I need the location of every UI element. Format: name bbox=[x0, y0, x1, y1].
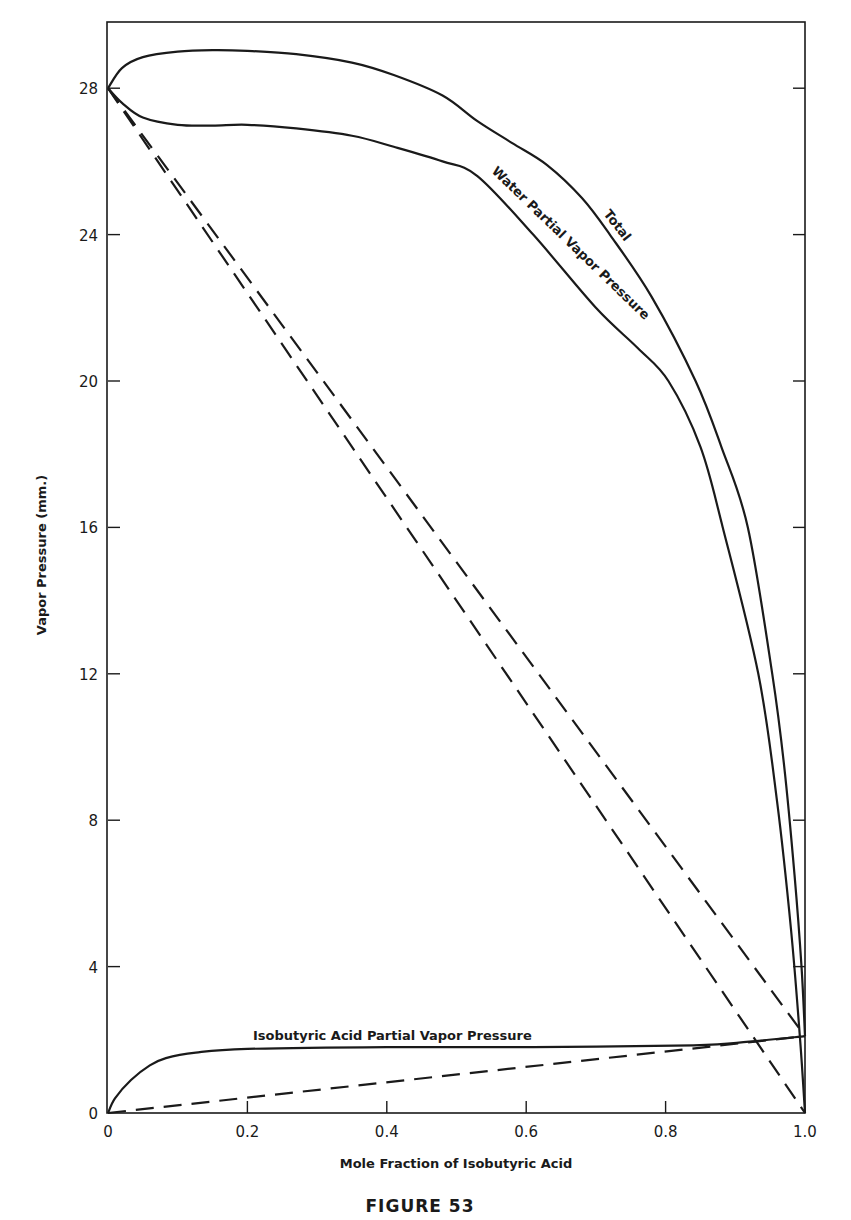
y-tick-label: 0 bbox=[88, 1105, 98, 1123]
plot-frame bbox=[107, 22, 805, 1113]
y-tick-label: 8 bbox=[88, 812, 98, 830]
ideal-total-raoult-line-line bbox=[108, 88, 805, 1036]
x-tick-label: 0.4 bbox=[375, 1123, 399, 1141]
x-tick-label: 0 bbox=[103, 1123, 113, 1141]
x-tick-label: 1.0 bbox=[793, 1123, 817, 1141]
axis-tick-labels: 00.20.40.60.81.00481216202428 bbox=[79, 80, 817, 1141]
y-tick-label: 16 bbox=[79, 519, 98, 537]
y-tick-label: 24 bbox=[79, 227, 98, 245]
y-tick-label: 12 bbox=[79, 666, 98, 684]
vapor-pressure-chart: 00.20.40.60.81.00481216202428 Mole Fract… bbox=[0, 0, 851, 1220]
y-tick-label: 28 bbox=[79, 80, 98, 98]
y-tick-label: 4 bbox=[88, 959, 98, 977]
total-line bbox=[108, 50, 805, 1036]
x-tick-label: 0.6 bbox=[514, 1123, 538, 1141]
x-axis-label: Mole Fraction of Isobutyric Acid bbox=[340, 1156, 572, 1171]
acid-curve-label: Isobutyric Acid Partial Vapor Pressure bbox=[253, 1028, 532, 1043]
y-axis-label: Vapor Pressure (mm.) bbox=[34, 475, 49, 635]
ideal-water-raoult-line-line bbox=[108, 88, 805, 1113]
x-tick-label: 0.2 bbox=[235, 1123, 259, 1141]
data-series bbox=[108, 50, 805, 1113]
y-tick-label: 20 bbox=[79, 373, 98, 391]
total-curve-label: Total bbox=[601, 207, 635, 244]
x-tick-label: 0.8 bbox=[654, 1123, 678, 1141]
figure-caption: FIGURE 53 bbox=[366, 1196, 475, 1216]
